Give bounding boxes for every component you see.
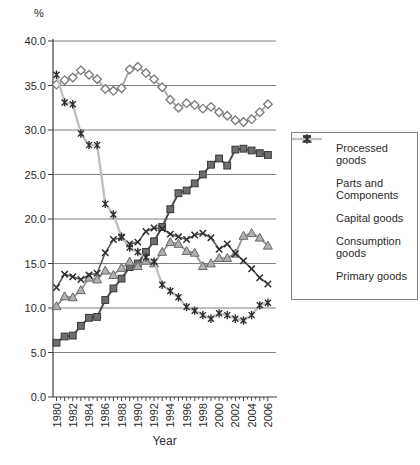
square-marker xyxy=(86,314,93,321)
diamond-marker xyxy=(239,118,248,127)
x-tick-label: 1982 xyxy=(67,403,79,427)
triangle-marker xyxy=(207,259,216,267)
y-tick-label: 15.0 xyxy=(25,258,46,270)
x-tick-label: 1994 xyxy=(164,403,176,427)
square-marker xyxy=(77,322,84,329)
y-tick-label: 5.0 xyxy=(31,347,46,359)
x-tick-label: 1996 xyxy=(181,403,193,427)
x-tick-label: 2002 xyxy=(229,403,241,427)
y-tick-label: 35.0 xyxy=(25,80,46,92)
x-tick-label: 2000 xyxy=(213,403,225,427)
x-tick-label: 1998 xyxy=(197,403,209,427)
y-tick-label: 20.0 xyxy=(25,213,46,225)
x-tick-label: 1992 xyxy=(148,403,160,427)
x-marker xyxy=(248,266,254,272)
square-marker xyxy=(183,187,190,194)
legend-item-label: Primary goods xyxy=(336,270,413,282)
square-marker xyxy=(264,152,271,159)
series-line-capital-goods xyxy=(57,233,268,306)
square-marker xyxy=(175,190,182,197)
square-marker xyxy=(110,285,117,292)
x-marker xyxy=(53,284,59,290)
square-marker xyxy=(248,147,255,154)
legend-marker-sample xyxy=(292,133,322,145)
x-tick-label: 2004 xyxy=(246,403,258,427)
chart-legend: Processed goodsParts and ComponentsCapit… xyxy=(291,132,418,300)
legend-item-parts-and-components: Parts and Components xyxy=(300,177,413,201)
square-marker xyxy=(208,161,215,168)
y-tick-label: 40.0 xyxy=(25,35,46,47)
square-marker xyxy=(199,171,206,178)
triangle-marker xyxy=(247,229,256,237)
x-tick-label: 1990 xyxy=(132,403,144,427)
square-marker xyxy=(232,146,239,153)
legend-item-label: Consumption goods xyxy=(336,235,413,259)
square-marker xyxy=(102,297,109,304)
diamond-marker xyxy=(109,87,118,96)
square-marker xyxy=(118,275,125,282)
x-marker xyxy=(143,228,149,234)
series-primary-goods xyxy=(54,71,271,325)
triangle-marker xyxy=(125,257,134,265)
square-marker xyxy=(151,238,158,245)
legend-item-label: Capital goods xyxy=(336,212,413,224)
asterisk-marker xyxy=(78,129,84,137)
x-axis-title: Year xyxy=(53,434,276,448)
square-marker xyxy=(53,339,60,346)
x-marker xyxy=(216,246,222,252)
diamond-marker xyxy=(199,104,208,113)
square-marker xyxy=(61,333,68,340)
series-capital-goods xyxy=(52,229,272,310)
legend-item-label: Parts and Components xyxy=(336,177,413,201)
legend-item-capital-goods: Capital goods xyxy=(300,212,413,224)
x-axis-ticks: 1980198219841986198819901992199419961998… xyxy=(51,397,274,427)
diamond-marker xyxy=(190,101,199,110)
series-line-parts-and-components xyxy=(57,149,268,343)
diamond-marker xyxy=(231,116,240,125)
y-axis-ticks: 0.05.010.015.020.025.030.035.040.0 xyxy=(25,35,53,403)
square-marker xyxy=(224,162,231,169)
y-tick-label: 30.0 xyxy=(25,124,46,136)
legend-item-primary-goods: Primary goods xyxy=(300,270,413,282)
x-tick-label: 1980 xyxy=(51,403,63,427)
x-tick-label: 1988 xyxy=(116,403,128,427)
y-tick-label: 25.0 xyxy=(25,169,46,181)
legend-item-processed-goods: Processed goods xyxy=(300,142,413,166)
y-axis-unit-label: % xyxy=(34,7,44,19)
square-marker xyxy=(240,145,247,152)
x-marker xyxy=(257,275,263,281)
diamond-marker xyxy=(125,65,134,74)
triangle-marker xyxy=(166,238,175,246)
asterisk-marker xyxy=(119,233,125,241)
square-marker xyxy=(167,206,174,213)
legend-item-consumption-goods: Consumption goods xyxy=(300,235,413,259)
x-marker xyxy=(265,281,271,287)
series-processed-goods xyxy=(52,63,272,127)
legend-item-label: Processed goods xyxy=(336,142,413,166)
diamond-marker xyxy=(85,71,94,80)
asterisk-marker xyxy=(102,200,108,208)
y-tick-label: 0.0 xyxy=(31,391,46,403)
asterisk-marker xyxy=(110,210,116,218)
triangle-marker xyxy=(101,266,110,274)
line-chart-figure: 0.05.010.015.020.025.030.035.040.0198019… xyxy=(0,0,420,465)
x-tick-label: 1984 xyxy=(83,403,95,427)
square-marker xyxy=(216,155,223,162)
asterisk-marker xyxy=(54,71,60,79)
x-marker xyxy=(208,234,214,240)
x-tick-label: 2006 xyxy=(262,403,274,427)
diamond-marker xyxy=(60,76,69,85)
asterisk-marker xyxy=(175,293,181,301)
square-marker xyxy=(94,314,101,321)
x-tick-label: 1986 xyxy=(99,403,111,427)
square-marker xyxy=(69,332,76,339)
square-marker xyxy=(256,150,263,157)
diamond-marker xyxy=(182,99,191,108)
asterisk-marker xyxy=(167,287,173,295)
x-marker xyxy=(102,250,108,256)
diamond-marker xyxy=(223,111,232,120)
y-tick-label: 10.0 xyxy=(25,302,46,314)
asterisk-marker xyxy=(159,281,165,289)
square-marker xyxy=(191,180,198,187)
x-marker xyxy=(224,241,230,247)
